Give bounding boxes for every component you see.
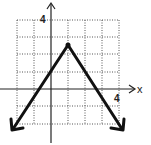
y-tick-4: 4 <box>40 15 46 25</box>
grid <box>17 20 119 124</box>
x-axis-label: x <box>137 84 143 94</box>
graph <box>0 0 151 145</box>
x-tick-4: 4 <box>114 94 120 104</box>
vertex-point <box>66 43 71 48</box>
